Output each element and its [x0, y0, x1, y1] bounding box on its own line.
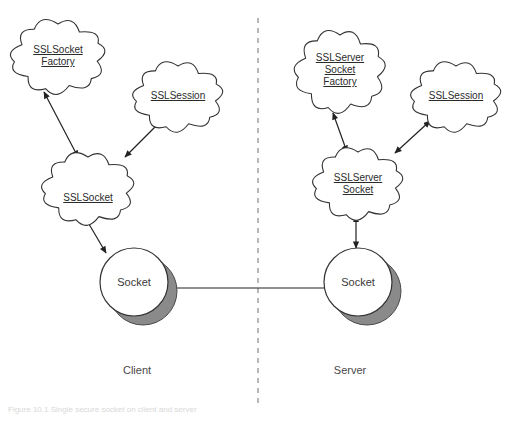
arrow-sslserversocket-to-sslsession: [395, 121, 430, 153]
cloud-sslsession-client[interactable]: [133, 62, 223, 132]
cloud-sslsession-server[interactable]: [411, 62, 501, 132]
diagram-canvas: SSLSocketFactorySSLSessionSSLSocketSSLSe…: [0, 0, 510, 421]
cloud-sslsocket[interactable]: [42, 153, 134, 226]
socket-circles: [100, 248, 401, 325]
socket-circle-socket-client[interactable]: [100, 248, 168, 316]
cloud-sslserversocketfactory[interactable]: [294, 31, 385, 114]
socket-circle-socket-server[interactable]: [324, 248, 392, 316]
diagram-vector-layer: [0, 0, 510, 421]
arrow-sslserversocketfactory-to-sslserversocket: [333, 113, 347, 152]
arrow-sslsocketfactory-to-sslsocket: [44, 92, 78, 157]
cloud-shapes: [10, 20, 500, 226]
cloud-sslserversocket[interactable]: [313, 148, 403, 221]
cloud-sslsocketfactory[interactable]: [10, 20, 104, 95]
